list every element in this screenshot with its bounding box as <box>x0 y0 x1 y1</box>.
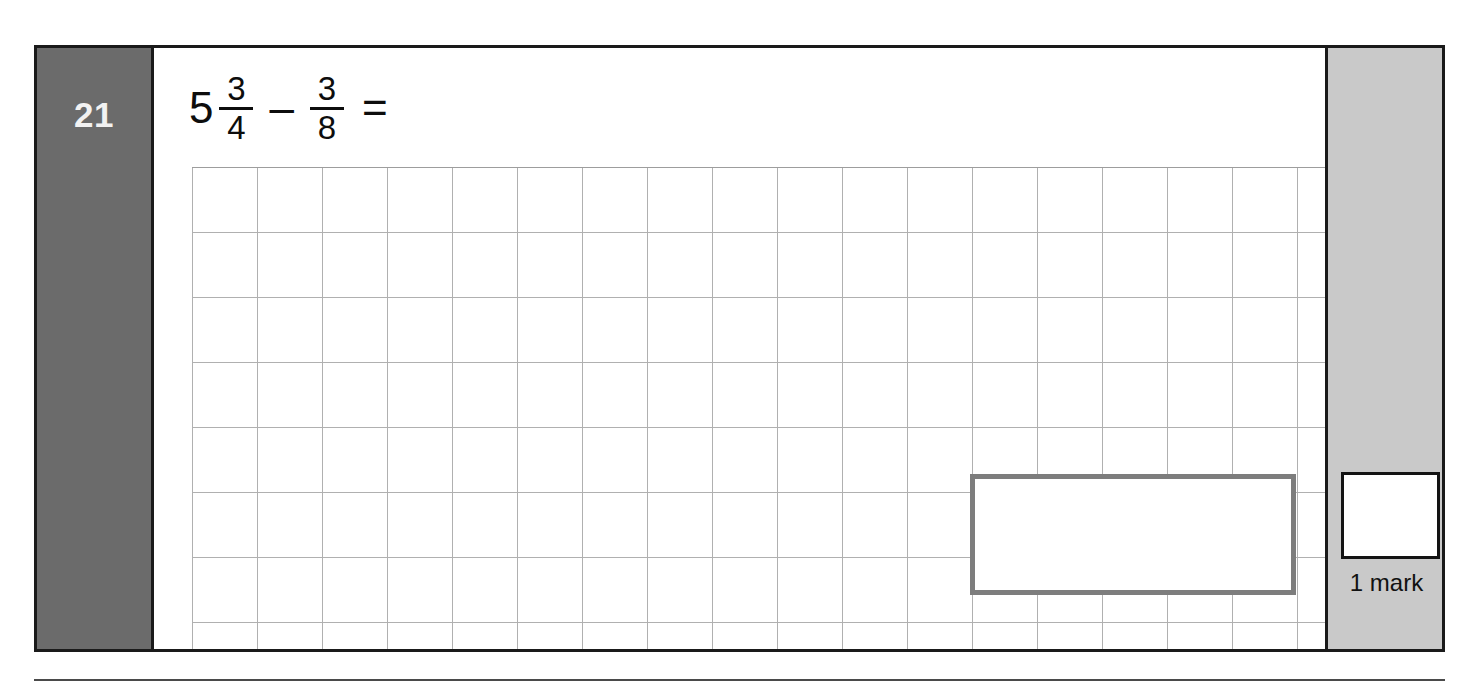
examiner-mark-box[interactable] <box>1341 472 1440 559</box>
fraction-denominator: 4 <box>221 110 251 145</box>
equals-sign: = <box>362 86 388 130</box>
fraction-three-quarters: 3 4 <box>219 72 253 144</box>
fraction-numerator: 3 <box>221 72 251 107</box>
grid-top-rule <box>192 167 1325 168</box>
question-number: 21 <box>74 95 114 135</box>
question-frame: 21 5 3 4 – 3 8 = <box>34 45 1445 652</box>
question-number-column: 21 <box>37 48 154 649</box>
mixed-number-whole-part: 5 <box>189 86 213 130</box>
answer-input-box[interactable] <box>970 474 1296 595</box>
fraction-numerator: 3 <box>312 72 342 107</box>
fraction-denominator: 8 <box>312 110 342 145</box>
fraction-three-eighths: 3 8 <box>310 72 344 144</box>
question-body: 5 3 4 – 3 8 = <box>157 48 1325 649</box>
expression-area: 5 3 4 – 3 8 = <box>157 48 1325 167</box>
marks-label: 1 mark <box>1328 569 1445 597</box>
minus-operator: – <box>269 86 293 130</box>
page-divider <box>34 679 1445 681</box>
math-expression: 5 3 4 – 3 8 = <box>189 71 388 143</box>
marks-column: 1 mark <box>1325 48 1442 649</box>
